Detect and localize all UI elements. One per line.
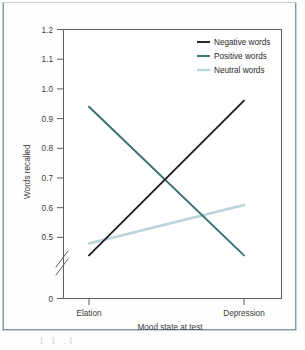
x-axis-title: Mood state at test xyxy=(137,323,203,331)
figure-panel: 1.2 1.1 1.0 0.9 0.8 0.7 0.6 0.5 0 Words … xyxy=(0,0,305,350)
xtick-label-elation: Elation xyxy=(76,309,101,318)
legend-label-negative-words: Negative words xyxy=(214,38,270,47)
ytick-label-0-5: 0.5 xyxy=(42,233,54,242)
ytick-label-0-8: 0.8 xyxy=(42,144,54,153)
figure-border: 1.2 1.1 1.0 0.9 0.8 0.7 0.6 0.5 0 Words … xyxy=(3,2,296,330)
xtick-label-depression: Depression xyxy=(223,309,265,318)
ytick-label-0-7: 0.7 xyxy=(42,174,54,183)
ytick-label-0-6: 0.6 xyxy=(42,204,54,213)
ytick-label-0-9: 0.9 xyxy=(42,115,54,124)
y-axis-title: Words recalled xyxy=(23,144,32,199)
scan-text-fragment: l l .l xyxy=(40,334,240,348)
line-chart: 1.2 1.1 1.0 0.9 0.8 0.7 0.6 0.5 0 Words … xyxy=(4,3,297,331)
ytick-label-1-1: 1.1 xyxy=(42,55,54,64)
legend-label-neutral-words: Neutral words xyxy=(214,66,265,75)
legend-label-positive-words: Positive words xyxy=(214,52,267,61)
ytick-label-1-2: 1.2 xyxy=(42,26,54,35)
ytick-label-0: 0 xyxy=(48,295,53,304)
x-axis-ticks xyxy=(89,299,244,306)
ytick-label-1-0: 1.0 xyxy=(42,85,54,94)
legend: Negative words Positive words Neutral wo… xyxy=(193,32,281,76)
